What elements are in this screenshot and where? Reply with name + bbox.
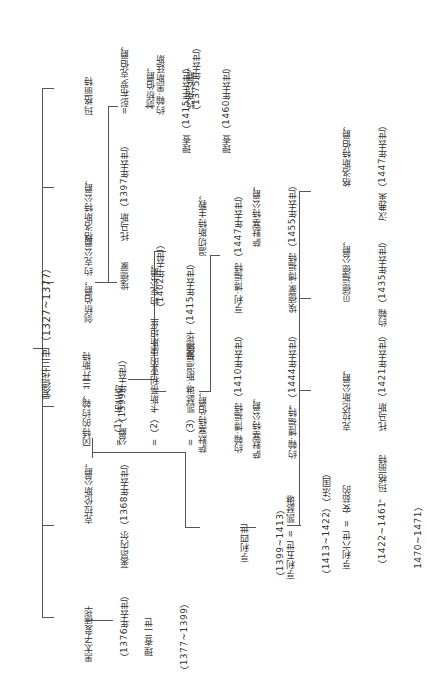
root-name: 爱德华三世（1327~1377）: [41, 262, 53, 399]
line: 莱昂内尔（1368年去世）: [118, 458, 130, 568]
child-gloucester: 格洛斯特公爵， 托马斯（1397年去世）: [58, 140, 142, 241]
line: 黑太子爱德华: [82, 590, 94, 662]
humphrey-gloucester: 格洛斯特伯爵， 汉弗莱（1447年去世）: [316, 120, 400, 221]
line: 克拉伦斯公爵，: [340, 330, 352, 431]
line: 1470~1471）: [412, 454, 424, 569]
line: 亨利六世 = 安茹的: [340, 454, 352, 569]
line: 格洛斯特伯爵，: [340, 120, 352, 221]
tick-gaunt: [42, 406, 54, 407]
line: 萨默塞特公爵，: [250, 180, 262, 313]
thomas-clarence: 克拉伦斯公爵， 托马斯（1421年去世）: [316, 330, 400, 431]
line: 萨默塞特伯爵，: [196, 330, 208, 453]
tick-clarence: [42, 525, 54, 526]
john-somerset-duke: 萨默塞特公爵， 约翰·博福特，（1444年去世）: [226, 330, 310, 459]
henry-vi: 亨利六世 = 安茹的 （1422~1461，玛格丽特 1470~1471）: [316, 454, 427, 569]
line: 温切斯特主教，: [196, 190, 208, 313]
john-bedford: 贝德福德公爵， 约翰（1435年去世）: [316, 236, 400, 327]
line: 格洛斯特公爵，: [82, 140, 94, 241]
line: 约翰·博福特，（1444年去世）: [286, 330, 298, 459]
richard-york: 约克公爵， 理查（1460年去世）: [160, 62, 244, 153]
tick-margaret: [42, 88, 54, 89]
wife-1: =（1）布兰奇: [112, 318, 124, 446]
line: 埃德蒙·博福特（1455年去世）: [286, 180, 298, 313]
richard-ii: 理查二世 （1377~1399）: [118, 598, 202, 675]
line: 托马斯（1397年去世）: [118, 140, 130, 241]
edmund-somerset: 萨默塞特公爵， 埃德蒙·博福特（1455年去世）: [226, 180, 310, 313]
tick-black-prince: [42, 617, 54, 618]
gaunt-to-henry4-d: [185, 527, 200, 528]
gaunt-to-henry4-c: [185, 452, 186, 528]
line: 理查二世: [142, 598, 154, 675]
wife-2: =（2）卡斯蒂利亚的康斯坦丝: [148, 318, 160, 446]
line: （1422~1461，玛格丽特: [376, 454, 388, 569]
line: 玛格丽特: [82, 40, 94, 115]
line: 约翰（1435年去世）: [376, 236, 388, 327]
line: 汉弗莱（1447年去世）: [376, 120, 388, 221]
child-clarence: 克拉伦斯公爵， 莱昂内尔（1368年去世）: [58, 458, 142, 568]
line: （1377~1399）: [178, 598, 190, 675]
line: 理查（1460年去世）: [220, 62, 232, 153]
line: 托马斯（1421年去世）: [376, 330, 388, 431]
line: 萨默塞特公爵，: [250, 330, 262, 459]
line: 亨利五世 = 凯瑟琳: [284, 468, 296, 579]
line: 约克公爵，: [184, 62, 196, 153]
line: 克拉伦斯公爵，: [82, 458, 94, 568]
tick-gloucester: [42, 187, 54, 188]
line: 贝德福德公爵，: [340, 236, 352, 327]
line: 剑桥伯爵，约克公爵，: [82, 228, 94, 323]
line: 剑桥伯爵，: [144, 62, 156, 153]
line: 亨利四世: [238, 504, 250, 581]
